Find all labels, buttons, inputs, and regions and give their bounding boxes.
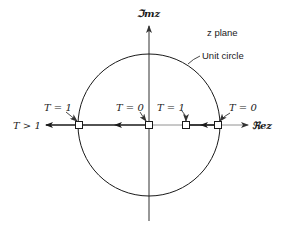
leader-right-crossing (220, 113, 230, 121)
label-locus-end: T > 1 (13, 120, 41, 131)
label-origin: T = 0 (116, 102, 144, 113)
label-right-crossing: T = 0 (229, 102, 257, 113)
label-left-crossing: T = 1 (44, 102, 72, 113)
label-unit-circle: Unit circle (202, 50, 244, 61)
z-plane-diagram: T = 1 T = 0 T = 1 T = 0 T > 1 ℜez ℑmz z … (0, 0, 285, 233)
point-origin (146, 122, 153, 129)
leader-origin (140, 112, 146, 121)
point-inner-right (183, 122, 190, 129)
label-real-axis: ℜez (252, 120, 272, 131)
label-plane: z plane (207, 27, 238, 38)
leader-left-crossing (66, 112, 77, 121)
point-right-crossing (215, 122, 222, 129)
point-left-crossing (76, 122, 83, 129)
label-inner-right: T = 1 (157, 102, 185, 113)
leader-unit-circle (188, 56, 200, 64)
label-imaginary-axis: ℑmz (137, 8, 161, 19)
